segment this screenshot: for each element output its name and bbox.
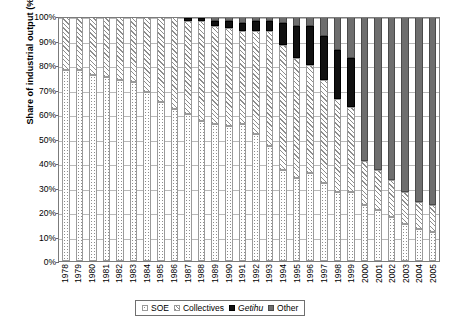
bar-segment-get: [306, 26, 314, 65]
stacked-bar[interactable]: [293, 18, 301, 261]
stacked-bar[interactable]: [62, 18, 70, 261]
stacked-bar[interactable]: [130, 18, 138, 261]
x-slot: 1994: [276, 263, 290, 295]
bar-slot: [73, 18, 87, 261]
stacked-bar[interactable]: [334, 18, 342, 261]
stacked-bar[interactable]: [116, 18, 124, 261]
bar-segment-oth: [279, 17, 287, 23]
x-tick-label: 2003: [401, 264, 411, 283]
legend-item[interactable]: Getihu: [229, 303, 263, 313]
bar-segment-col: [429, 205, 437, 232]
bar-segment-col: [334, 99, 342, 192]
x-slot: 1992: [249, 263, 263, 295]
y-tick-label: 60%: [4, 110, 56, 120]
x-slot: 1997: [317, 263, 331, 295]
bar-segment-oth: [293, 17, 301, 26]
bar-segment-col: [252, 31, 260, 134]
x-slot: 1988: [194, 263, 208, 295]
stacked-bar[interactable]: [252, 18, 260, 261]
stacked-bar[interactable]: [279, 18, 287, 261]
bar-slot: [181, 18, 195, 261]
stacked-bar[interactable]: [306, 18, 314, 261]
x-slot: 1991: [235, 263, 249, 295]
bar-segment-col: [306, 65, 314, 173]
y-tick-label: 10%: [4, 233, 56, 243]
bar-segment-soe: [116, 80, 124, 261]
bar-segment-col: [76, 17, 84, 70]
y-tick-label: 50%: [4, 135, 56, 145]
stacked-bar[interactable]: [89, 18, 97, 261]
bar-segment-col: [320, 80, 328, 183]
bar-segment-get: [293, 26, 301, 58]
legend-label: Collectives: [183, 303, 224, 313]
bar-slot: [236, 18, 250, 261]
bar-segment-soe: [130, 82, 138, 261]
stacked-bar[interactable]: [143, 18, 151, 261]
bar-segment-get: [252, 21, 260, 31]
x-tick-label: 1985: [155, 264, 165, 283]
stacked-bar[interactable]: [239, 18, 247, 261]
bar-segment-soe: [347, 192, 355, 261]
bar-segment-get: [184, 18, 192, 20]
x-slot: 2004: [413, 263, 427, 295]
bar-slot: [276, 18, 290, 261]
bar-segment-oth: [252, 17, 260, 21]
bar-segment-soe: [157, 102, 165, 261]
bar-segment-col: [293, 58, 301, 178]
bar-segment-oth: [239, 17, 247, 23]
bar-segment-soe: [429, 232, 437, 261]
x-tick-label: 2004: [414, 264, 424, 283]
legend-item[interactable]: Collectives: [174, 303, 224, 313]
x-tick-label: 1981: [101, 264, 111, 283]
bar-slot: [263, 18, 277, 261]
bar-slot: [290, 18, 304, 261]
bar-segment-oth: [334, 17, 342, 50]
x-tick-label: 1994: [278, 264, 288, 283]
x-slot: 1985: [153, 263, 167, 295]
legend-item[interactable]: Other: [268, 303, 298, 313]
stacked-bar[interactable]: [347, 18, 355, 261]
stacked-bar[interactable]: [266, 18, 274, 261]
bar-segment-oth: [388, 17, 396, 180]
bar-segment-oth: [361, 17, 369, 161]
x-tick-label: 1980: [87, 264, 97, 283]
stacked-bar[interactable]: [374, 18, 382, 261]
x-tick-label: 1997: [319, 264, 329, 283]
x-tick-label: 1993: [264, 264, 274, 283]
bar-slot: [249, 18, 263, 261]
stacked-bar[interactable]: [198, 18, 206, 261]
stacked-bar[interactable]: [429, 18, 437, 261]
stacked-bar[interactable]: [415, 18, 423, 261]
stacked-bar[interactable]: [76, 18, 84, 261]
x-tick-label: 1983: [128, 264, 138, 283]
y-tick-label: 40%: [4, 159, 56, 169]
stacked-bar[interactable]: [171, 18, 179, 261]
x-tick-label: 1982: [114, 264, 124, 283]
stacked-bar[interactable]: [401, 18, 409, 261]
bar-slot: [195, 18, 209, 261]
legend-label: Getihu: [238, 303, 263, 313]
stacked-bar[interactable]: [225, 18, 233, 261]
y-tick-label: 70%: [4, 86, 56, 96]
stacked-bar[interactable]: [157, 18, 165, 261]
bar-segment-col: [143, 17, 151, 92]
legend-item[interactable]: SOE: [142, 303, 169, 313]
y-tick-label: 0%: [4, 257, 56, 267]
x-slot: 2002: [385, 263, 399, 295]
stacked-bar[interactable]: [211, 18, 219, 261]
bar-segment-col: [62, 17, 70, 70]
bar-slot: [331, 18, 345, 261]
bar-segment-soe: [184, 114, 192, 261]
legend-swatch-get-icon: [229, 305, 235, 311]
stacked-bar[interactable]: [388, 18, 396, 261]
bar-segment-oth: [320, 17, 328, 36]
stacked-bar[interactable]: [184, 18, 192, 261]
stacked-bar[interactable]: [320, 18, 328, 261]
y-tick-label: 80%: [4, 61, 56, 71]
bar-segment-soe: [171, 109, 179, 261]
bar-segment-soe: [76, 70, 84, 261]
stacked-bar[interactable]: [361, 18, 369, 261]
bar-slot: [168, 18, 182, 261]
stacked-bar[interactable]: [103, 18, 111, 261]
x-tick-label: 1992: [251, 264, 261, 283]
